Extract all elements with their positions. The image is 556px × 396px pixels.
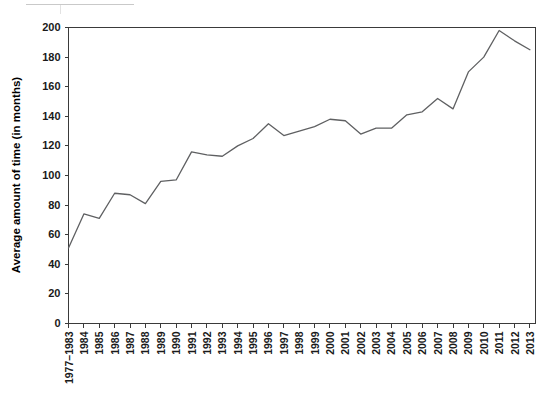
- x-tick-label: 2005: [401, 331, 413, 355]
- x-tick-label: 1988: [139, 331, 151, 355]
- chart-figure: 020406080100120140160180200 1977–1983198…: [0, 0, 556, 396]
- x-tick-label: 1997: [278, 331, 290, 355]
- y-tick-label: 100: [42, 169, 60, 181]
- x-tick-label: 1995: [247, 331, 259, 355]
- x-tick-label: 1991: [186, 331, 198, 355]
- x-tick-label: 1987: [124, 331, 136, 355]
- x-tick-label: 2004: [385, 331, 397, 355]
- y-tick-labels: 020406080100120140160180200: [42, 21, 60, 329]
- y-tick-label: 60: [48, 228, 60, 240]
- y-tick-label: 20: [48, 287, 60, 299]
- y-tick-label: 80: [48, 199, 60, 211]
- scan-artifact-tick: [60, 5, 61, 14]
- x-tick-marks: [69, 324, 530, 328]
- y-tick-marks: [65, 28, 69, 324]
- x-tick-label: 1996: [262, 331, 274, 355]
- x-tick-label: 1984: [78, 331, 90, 355]
- x-tick-label: 2007: [432, 331, 444, 355]
- x-tick-label: 2013: [524, 331, 536, 355]
- y-tick-label: 140: [42, 110, 60, 122]
- y-tick-label: 180: [42, 51, 60, 63]
- x-tick-label: 2002: [355, 331, 367, 355]
- x-tick-label: 1998: [293, 331, 305, 355]
- x-tick-label: 2010: [478, 331, 490, 355]
- y-tick-label: 0: [54, 317, 60, 329]
- x-tick-label: 1986: [109, 331, 121, 355]
- y-axis-label: Average amount of time (in months): [10, 77, 22, 274]
- x-tick-label: 1992: [201, 331, 213, 355]
- x-tick-label: 2000: [324, 331, 336, 355]
- x-tick-label: 1999: [309, 331, 321, 355]
- x-tick-label: 1985: [93, 331, 105, 355]
- y-tick-label: 120: [42, 139, 60, 151]
- x-tick-labels: 1977–19831984198519861987198819891990199…: [63, 331, 536, 384]
- data-series-line: [69, 30, 530, 248]
- x-tick-label: 2003: [370, 331, 382, 355]
- y-tick-label: 40: [48, 258, 60, 270]
- x-tick-label: 2012: [509, 331, 521, 355]
- y-tick-label: 200: [42, 21, 60, 33]
- x-tick-label: 1990: [170, 331, 182, 355]
- x-tick-label: 2011: [493, 331, 505, 354]
- x-tick-label: 2009: [462, 331, 474, 355]
- y-tick-label: 160: [42, 80, 60, 92]
- x-tick-label: 2006: [416, 331, 428, 355]
- x-tick-label: 1989: [155, 331, 167, 355]
- x-tick-label: 1994: [232, 331, 244, 355]
- line-chart: 020406080100120140160180200 1977–1983198…: [0, 0, 556, 396]
- x-tick-label: 1977–1983: [63, 331, 75, 384]
- x-tick-label: 1993: [216, 331, 228, 355]
- plot-frame: [69, 28, 536, 324]
- x-tick-label: 2001: [339, 331, 351, 355]
- x-tick-label: 2008: [447, 331, 459, 355]
- scan-artifact-line: [26, 4, 134, 5]
